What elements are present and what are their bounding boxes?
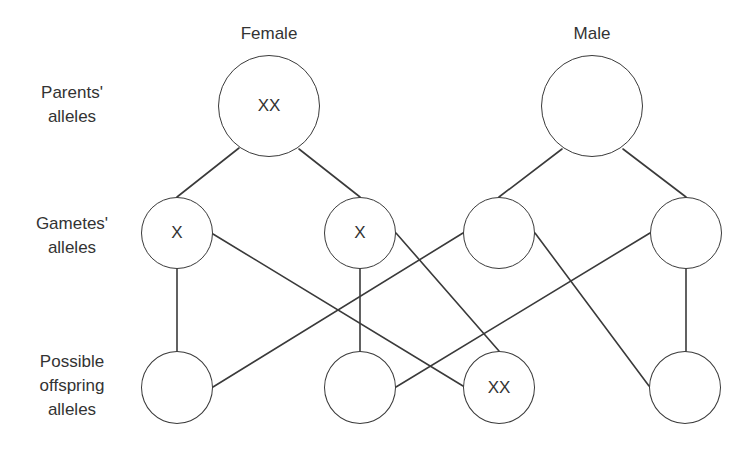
offspring-3-node: XX (463, 351, 535, 424)
row-label-offspring-line-3: alleles (12, 398, 132, 422)
gamete-female-1-node: X (141, 197, 213, 269)
row-label-offspring-line-2: offspring (12, 374, 132, 398)
row-label-parents-line-2: alleles (12, 105, 132, 129)
column-label-male: Male (532, 24, 652, 44)
offspring-2-node (324, 351, 396, 424)
gamete-male-1-node (463, 197, 535, 269)
row-label-parents-line-1: Parents' (12, 81, 132, 105)
row-label-offspring-line-1: Possible (12, 350, 132, 374)
edge-female-to-gamete-2 (299, 149, 360, 197)
inheritance-diagram: Female Male Parents' alleles Gametes' al… (0, 0, 742, 456)
edge-male-to-gamete-3 (499, 149, 562, 197)
gamete-male-2-node (650, 197, 722, 269)
row-label-gametes: Gametes' alleles (12, 212, 132, 260)
offspring-1-node (141, 351, 213, 424)
gamete-female-2-node: X (324, 197, 396, 269)
row-label-offspring: Possible offspring alleles (12, 350, 132, 422)
parent-female-node: XX (218, 55, 320, 157)
row-label-gametes-line-2: alleles (12, 236, 132, 260)
offspring-4-node (649, 351, 721, 424)
row-label-gametes-line-1: Gametes' (12, 212, 132, 236)
row-label-parents: Parents' alleles (12, 81, 132, 129)
edge-female-to-gamete-1 (177, 148, 239, 197)
parent-male-node (541, 55, 643, 157)
column-label-female: Female (209, 24, 329, 44)
edge-gamete-3-to-offspring-4 (535, 233, 649, 386)
edge-male-to-gamete-4 (623, 149, 686, 197)
